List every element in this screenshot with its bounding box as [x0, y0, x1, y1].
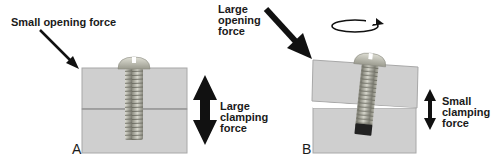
- large-opening-force-label: Large opening force: [218, 4, 261, 37]
- small-clamping-force-label: Small clamping force: [442, 96, 490, 129]
- large-opening-force-arrow: [266, 9, 312, 59]
- panel-a: [40, 30, 217, 153]
- panel-a-letter: A: [72, 141, 81, 157]
- panel-b-letter: B: [302, 141, 311, 157]
- rotate-clockwise-icon: [332, 18, 384, 32]
- small-opening-force-label: Small opening force: [11, 17, 116, 28]
- large-clamping-force-label: Large clamping force: [220, 101, 268, 134]
- panel-b: [266, 9, 436, 153]
- small-clamping-force-arrow: [424, 89, 436, 130]
- large-clamping-force-arrow: [193, 75, 217, 145]
- small-opening-force-arrow: [40, 30, 79, 69]
